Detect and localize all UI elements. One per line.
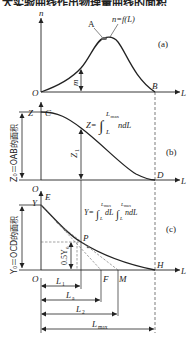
Z0-area-side-label: Z₀＝OAB的面积	[9, 124, 19, 182]
svg-text:L: L	[75, 304, 81, 314]
svg-text:L: L	[105, 128, 110, 136]
origin-c-label: O	[32, 274, 39, 284]
curve-label: n=f(L)	[112, 14, 135, 24]
svg-text:L: L	[99, 216, 103, 221]
L1-label: L 1	[55, 276, 65, 287]
origin-b-label: O	[32, 184, 39, 194]
svg-text:max: max	[111, 114, 120, 119]
svg-text:1: 1	[74, 149, 80, 152]
distribution-curve	[41, 37, 155, 92]
panel-c: E Y P (c) O F M H L Y= ∫ L max L dL ∫ L …	[9, 180, 186, 333]
m-label: m	[70, 79, 80, 86]
point-m-label: M	[118, 274, 127, 284]
n-axis-label: n	[39, 8, 44, 18]
panel-a: n A n=f(L) (a) O B L m	[32, 8, 186, 98]
svg-text:ndL: ndL	[125, 208, 138, 217]
point-h-label: H	[156, 260, 164, 270]
point-d-label: D	[156, 170, 164, 180]
Z1-label: Z 1	[69, 149, 80, 158]
Y-formula: Y= ∫ L max L dL ∫ L max L ndL	[84, 202, 138, 221]
svg-text:Y=: Y=	[84, 208, 94, 217]
point-p-label: P	[82, 233, 89, 243]
svg-text:∫: ∫	[98, 118, 105, 135]
Z-label: Z	[28, 108, 34, 118]
origin-a-label: O	[32, 88, 39, 98]
panel-b-tag: (b)	[166, 147, 177, 157]
half-Y0-label: 0.5Y 0	[60, 246, 70, 265]
panel-a-tag: (a)	[158, 39, 168, 49]
La-label: L a	[65, 290, 75, 301]
panel-b: Z C (b) D L O Z= ∫ L max L ndL Z 1 Z₀＝OA…	[9, 102, 186, 194]
point-b-label: B	[152, 81, 158, 91]
svg-text:2: 2	[82, 309, 85, 315]
svg-text:max: max	[98, 324, 108, 330]
point-c-label: C	[45, 108, 52, 118]
svg-text:L: L	[105, 110, 110, 118]
svg-text:L: L	[55, 276, 61, 286]
cumulative-curve-Z	[41, 112, 155, 180]
Lmax-label: L max	[91, 319, 108, 330]
point-f-label: F	[102, 274, 109, 284]
svg-text:L: L	[91, 319, 97, 329]
point-e-label: E	[44, 192, 51, 202]
svg-text:1: 1	[62, 281, 65, 287]
L-axis-b-label: L	[180, 176, 186, 186]
L-axis-a-label: L	[180, 88, 186, 98]
Y0-area-side-label: Y₀＝OCD的面积	[9, 216, 19, 275]
svg-text:Z=: Z=	[86, 120, 96, 130]
svg-text:L: L	[119, 216, 123, 221]
svg-text:0: 0	[65, 246, 70, 249]
Z-formula: Z= ∫ L max L ndL	[86, 110, 132, 136]
svg-text:L: L	[65, 290, 71, 300]
Y-label: Y	[32, 198, 38, 208]
svg-text:ndL: ndL	[118, 120, 132, 130]
L2-label: L 2	[75, 304, 85, 315]
point-a-marker	[101, 37, 107, 40]
L-axis-c-label: L	[180, 266, 186, 276]
svg-text:dL: dL	[105, 208, 114, 217]
point-a-label: A	[88, 19, 95, 29]
distribution-diagram: 大实验曲线作出物理量曲线的面积 n A	[0, 0, 189, 337]
panel-c-tag: (c)	[166, 224, 176, 234]
svg-text:0.5Y: 0.5Y	[60, 249, 69, 265]
